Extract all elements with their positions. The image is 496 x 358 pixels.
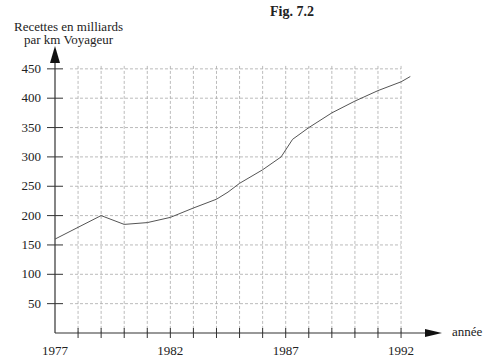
y-tick-label: 300 [22, 149, 42, 164]
x-tick-label: 1992 [388, 343, 414, 358]
y-tick-label: 350 [22, 120, 42, 135]
y-tick-label: 450 [22, 61, 42, 76]
series-line [55, 77, 410, 240]
x-axis-label: année [452, 324, 483, 339]
axes [50, 46, 442, 337]
x-tick-label: 1977 [42, 343, 69, 358]
y-tick-label: 50 [28, 296, 41, 311]
y-tick-label: 150 [22, 237, 42, 252]
grid-lines [70, 66, 401, 333]
line-chart: 5010015020025030035040045019771982198719… [0, 0, 496, 358]
y-tick-label: 200 [22, 208, 42, 223]
x-axis-arrow-icon [425, 329, 442, 337]
y-tick-label: 400 [22, 90, 42, 105]
x-tick-label: 1987 [273, 343, 300, 358]
x-tick-label: 1982 [157, 343, 183, 358]
y-axis-arrow-icon [50, 46, 60, 63]
y-tick-label: 250 [22, 178, 42, 193]
y-tick-label: 100 [22, 266, 42, 281]
